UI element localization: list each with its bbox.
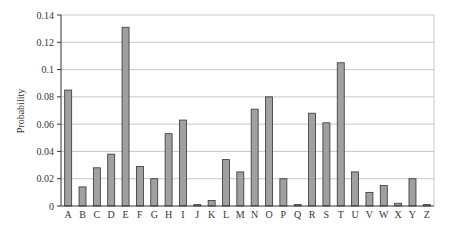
x-axis-labels: ABCDEFGHIJKLMNOPQRSTUVWXYZ: [65, 209, 430, 220]
x-category-label: K: [208, 209, 216, 220]
x-category-label: O: [265, 209, 272, 220]
bar-U: [352, 172, 359, 206]
bar-C: [93, 168, 100, 206]
x-category-label: M: [236, 209, 245, 220]
bar-D: [108, 154, 115, 206]
bar-Y: [409, 179, 416, 206]
axes: [61, 15, 434, 206]
bar-chart: 00.020.040.060.080.10.120.14 ABCDEFGHIJK…: [0, 0, 451, 228]
x-category-label: J: [195, 209, 199, 220]
x-category-label: E: [123, 209, 129, 220]
x-category-label: W: [379, 209, 389, 220]
y-tick-label: 0.06: [37, 119, 55, 130]
x-category-label: A: [65, 209, 73, 220]
x-category-label: S: [324, 209, 330, 220]
bar-V: [366, 192, 373, 206]
x-category-label: P: [281, 209, 287, 220]
bar-W: [380, 186, 387, 206]
bar-O: [266, 97, 273, 206]
bar-B: [79, 187, 86, 206]
bar-I: [179, 120, 186, 206]
x-category-label: H: [165, 209, 172, 220]
x-category-label: X: [395, 209, 403, 220]
x-category-label: T: [338, 209, 344, 220]
y-tick-label: 0.02: [37, 173, 55, 184]
y-tick-label: 0.08: [37, 91, 55, 102]
y-tick-label: 0.14: [37, 10, 55, 21]
bar-F: [136, 166, 143, 206]
x-category-label: F: [137, 209, 143, 220]
x-category-label: N: [251, 209, 258, 220]
bar-L: [222, 160, 229, 206]
bar-A: [65, 90, 72, 206]
bar-E: [122, 27, 129, 206]
bar-M: [237, 172, 244, 206]
x-category-label: U: [351, 209, 359, 220]
bar-G: [151, 179, 158, 206]
bar-H: [165, 134, 172, 206]
x-category-label: L: [223, 209, 229, 220]
bar-N: [251, 109, 258, 206]
y-tick-label: 0.04: [37, 146, 55, 157]
x-category-label: V: [366, 209, 374, 220]
bar-R: [309, 113, 316, 206]
gridlines: [61, 15, 434, 206]
y-tick-label: 0.12: [37, 37, 55, 48]
bar-P: [280, 179, 287, 206]
x-category-label: D: [108, 209, 115, 220]
x-category-label: G: [151, 209, 158, 220]
bar-S: [323, 123, 330, 206]
y-axis-label: Probability: [15, 89, 26, 133]
x-category-label: Y: [409, 209, 416, 220]
bar-K: [208, 201, 215, 206]
y-tick-label: 0.1: [42, 64, 55, 75]
y-tick-label: 0: [49, 201, 54, 212]
x-category-label: I: [181, 209, 184, 220]
bar-T: [337, 63, 344, 206]
x-category-label: R: [309, 209, 316, 220]
y-axis-ticks: 00.020.040.060.080.10.120.14: [37, 10, 62, 212]
x-category-label: B: [79, 209, 86, 220]
x-category-label: Z: [424, 209, 430, 220]
x-category-label: C: [94, 209, 101, 220]
x-category-label: Q: [294, 209, 302, 220]
